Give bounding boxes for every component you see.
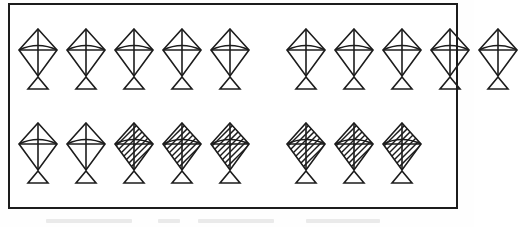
kite-plain: [112, 26, 156, 98]
kite-plain-icon: [16, 26, 60, 98]
scan-artifact: [306, 219, 380, 223]
kite-plain-icon: [208, 26, 252, 98]
kite-plain: [64, 120, 108, 192]
scan-artifact: [46, 219, 132, 223]
kite-plain-icon: [284, 26, 328, 98]
kite-hatched-icon: [208, 120, 252, 192]
kite-group-1-2: [284, 26, 522, 98]
kite-plain: [64, 26, 108, 98]
kite-hatched: [284, 120, 328, 192]
kite-plain: [332, 26, 376, 98]
kite-plain: [380, 26, 424, 98]
kite-plain: [428, 26, 472, 98]
kite-plain: [476, 26, 520, 98]
scan-artifact: [198, 219, 274, 223]
kite-hatched: [380, 120, 424, 192]
kite-plain-icon: [64, 26, 108, 98]
kite-plain-icon: [16, 120, 60, 192]
kite-plain-icon: [112, 26, 156, 98]
scan-artifact: [158, 219, 180, 223]
kite-plain-icon: [476, 26, 520, 98]
kite-hatched-icon: [284, 120, 328, 192]
kite-plain: [284, 26, 328, 98]
kite-hatched-icon: [160, 120, 204, 192]
kite-hatched: [112, 120, 156, 192]
kite-plain: [16, 26, 60, 98]
kite-plain-icon: [380, 26, 424, 98]
kite-hatched: [160, 120, 204, 192]
kite-plain: [16, 120, 60, 192]
kite-hatched-icon: [380, 120, 424, 192]
kite-plain-icon: [428, 26, 472, 98]
kite-plain: [160, 26, 204, 98]
kite-plain-icon: [64, 120, 108, 192]
kite-plain-icon: [160, 26, 204, 98]
kite-plain-icon: [332, 26, 376, 98]
kite-hatched: [208, 120, 252, 192]
kite-group-1-1: [16, 26, 256, 98]
kite-row-2: [16, 120, 428, 192]
kite-row-1: [16, 26, 522, 98]
kite-group-2-2: [284, 120, 428, 192]
kite-hatched-icon: [332, 120, 376, 192]
kite-hatched: [332, 120, 376, 192]
kite-plain: [208, 26, 252, 98]
kite-hatched-icon: [112, 120, 156, 192]
kite-group-2-1: [16, 120, 256, 192]
